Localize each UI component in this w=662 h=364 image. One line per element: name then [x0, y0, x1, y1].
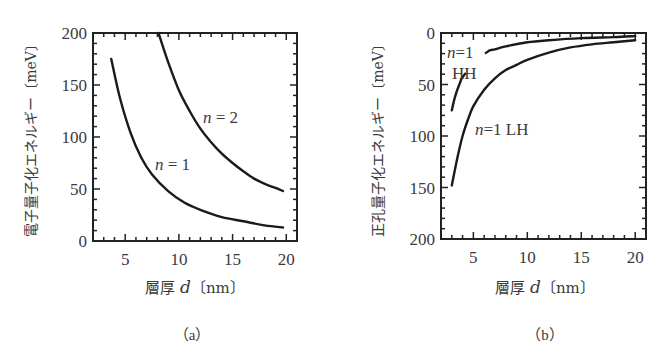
curve-label-n1: n = 1 [155, 155, 190, 174]
x-tick-label: 20 [627, 248, 644, 267]
curves-b [452, 36, 635, 185]
curve-label-n1-hh-top: n=1 [447, 43, 474, 62]
y-axis-title-a: 電子量子化エネルギー〔meV〕 [23, 37, 39, 237]
y-tick-label: 200 [410, 230, 436, 249]
y-tick-label: 150 [410, 179, 436, 198]
x-axis-title-b: 層厚 d〔nm〕 [495, 277, 595, 297]
x-tick-label: 15 [224, 250, 241, 269]
curve-n-1 [111, 59, 283, 227]
x-tick-label: 15 [573, 248, 590, 267]
curve-n-1-hh [452, 36, 635, 110]
y-tick-label: 0 [79, 232, 88, 251]
curve-label-n2: n = 2 [203, 108, 238, 127]
y-tick-label: 200 [62, 24, 88, 43]
y-tick-label: 0 [427, 24, 436, 43]
chart-figure: 5101520050100150200 電子量子化エネルギー〔meV〕 層厚 d… [0, 0, 662, 364]
caption-b: （b） [526, 327, 564, 343]
panel-b-hole-energy: 5101520050100150200 正孔量子化エネルギー〔meV〕 層厚 d… [370, 24, 646, 343]
y-tick-label: 150 [62, 76, 88, 95]
y-tick-label: 100 [62, 128, 88, 147]
y-axis-title-b: 正孔量子化エネルギー〔meV〕 [370, 37, 386, 237]
x-tick-label: 5 [121, 250, 130, 269]
y-tick-label: 50 [70, 180, 87, 199]
y-tick-label: 100 [410, 127, 436, 146]
x-tick-label: 10 [519, 248, 536, 267]
panel-a-electron-energy: 5101520050100150200 電子量子化エネルギー〔meV〕 層厚 d… [23, 24, 297, 343]
tick-marks-a [93, 33, 297, 241]
x-tick-label: 20 [278, 250, 295, 269]
x-axis-title-a: 層厚 d〔nm〕 [145, 277, 245, 297]
plot-frame-a [93, 33, 297, 241]
y-tick-label: 50 [418, 76, 435, 95]
curves-a [111, 33, 283, 227]
curve-label-hh: HH [452, 64, 477, 83]
tick-labels-a: 5101520050100150200 [62, 24, 295, 269]
x-tick-label: 10 [170, 250, 187, 269]
curve-label-n1-lh: n=1 LH [475, 120, 529, 139]
x-tick-label: 5 [469, 248, 478, 267]
caption-a: （a） [174, 327, 211, 343]
curve-n-1-lh [452, 40, 635, 185]
